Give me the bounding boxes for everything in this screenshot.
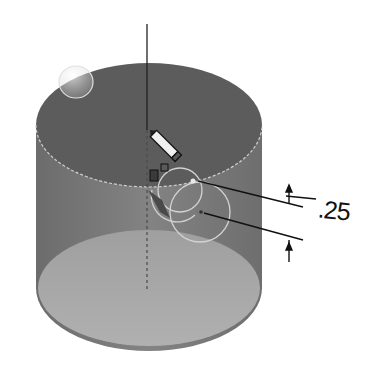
cad-viewport[interactable] <box>0 0 387 384</box>
cylinder-bottom-inner-face[interactable] <box>38 230 260 346</box>
sketch-point[interactable] <box>191 179 196 184</box>
selection-bubble[interactable] <box>59 66 93 98</box>
arrow-up-icon <box>286 185 292 192</box>
arrow-down-icon <box>286 243 292 250</box>
relation-icon-coincident[interactable] <box>150 170 158 181</box>
relation-icon-square[interactable] <box>161 164 168 171</box>
sketch-point-center[interactable] <box>199 210 203 214</box>
dimension-value[interactable]: .25 <box>317 194 352 226</box>
dim-tick-upper <box>286 196 316 199</box>
cylinder[interactable] <box>36 63 262 351</box>
